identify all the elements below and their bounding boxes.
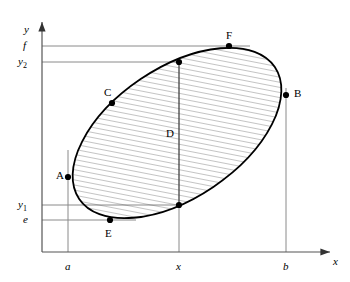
y-tick-label-e: e [23,214,28,225]
y-tick-f-text: f [23,39,26,51]
y-tick-e-text: e [23,213,28,225]
y-tick-y2-subscript: 2 [23,61,27,70]
ellipse-fill [43,13,311,253]
point-label-A: A [56,170,64,181]
y-tick-label-f: f [23,40,26,51]
y-axis-label: y [24,24,29,35]
point-marker-E [107,217,113,223]
point-label-E: E [105,228,112,239]
point-marker-B [283,92,289,98]
x-tick-label-a: a [65,261,71,272]
y-tick-y1-subscript: 1 [23,204,27,213]
x-axis-label: x [333,256,338,267]
x-tick-label-b: b [283,261,289,272]
point-marker-F [226,43,232,49]
point-marker-lower-chord [176,202,182,208]
point-marker-C [109,100,115,106]
ellipse-region [43,13,311,253]
point-label-B: B [294,88,301,99]
y-tick-label-y1: y1 [18,199,27,213]
ellipse-geometry-figure: y x f y2 y1 e a x b A B C F E D [0,0,350,282]
point-label-F: F [226,30,232,41]
chord-label-D: D [166,128,174,139]
point-label-C: C [104,87,111,98]
point-marker-A [65,174,71,180]
point-marker-upper-chord [176,59,182,65]
y-tick-label-y2: y2 [18,56,27,70]
figure-canvas [0,0,350,282]
x-tick-label-x: x [176,261,181,272]
